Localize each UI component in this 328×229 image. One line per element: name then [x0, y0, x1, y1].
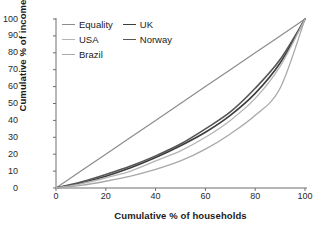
- legend-label: USA: [79, 35, 99, 45]
- x-tick-label: 80: [240, 192, 270, 201]
- x-tick-label: 20: [91, 192, 121, 201]
- x-tick-label: 0: [41, 192, 71, 201]
- y-tick-label: 10: [0, 167, 18, 176]
- y-tick-label: 20: [0, 150, 18, 159]
- legend-swatch-brazil: [62, 54, 75, 55]
- y-tick-label: 90: [0, 31, 18, 40]
- legend-swatch-usa: [62, 39, 75, 40]
- legend-swatch-uk: [123, 24, 136, 25]
- legend-item-usa[interactable]: USA: [62, 32, 113, 47]
- legend-label: Norway: [140, 35, 172, 45]
- legend-item-equality[interactable]: Equality: [62, 17, 113, 32]
- legend-label: Brazil: [79, 50, 103, 60]
- y-tick-label: 60: [0, 82, 18, 91]
- legend-swatch-norway: [123, 39, 136, 40]
- x-tick-label: 60: [190, 192, 220, 201]
- y-tick-label: 0: [0, 184, 18, 193]
- y-tick-label: 30: [0, 133, 18, 142]
- chart-legend: EqualityUKUSANorwayBrazil: [62, 17, 172, 62]
- legend-item-uk[interactable]: UK: [123, 17, 172, 32]
- y-tick-label: 80: [0, 48, 18, 57]
- y-tick-label: 100: [0, 15, 18, 24]
- x-tick-label: 100: [290, 192, 320, 201]
- y-tick-label: 50: [0, 99, 18, 108]
- legend-label: UK: [140, 20, 153, 30]
- legend-item-brazil[interactable]: Brazil: [62, 47, 113, 62]
- y-tick-label: 70: [0, 65, 18, 74]
- x-tick-label: 40: [141, 192, 171, 201]
- x-axis-title: Cumulative % of households: [56, 210, 305, 221]
- y-axis-title: Cumulative % of income: [17, 0, 28, 141]
- legend-swatch-equality: [62, 24, 75, 25]
- legend-label: Equality: [79, 20, 113, 30]
- legend-item-norway[interactable]: Norway: [123, 32, 172, 47]
- y-tick-label: 40: [0, 116, 18, 125]
- lorenz-curve-figure: 0102030405060708090100 020406080100 Cumu…: [0, 0, 328, 229]
